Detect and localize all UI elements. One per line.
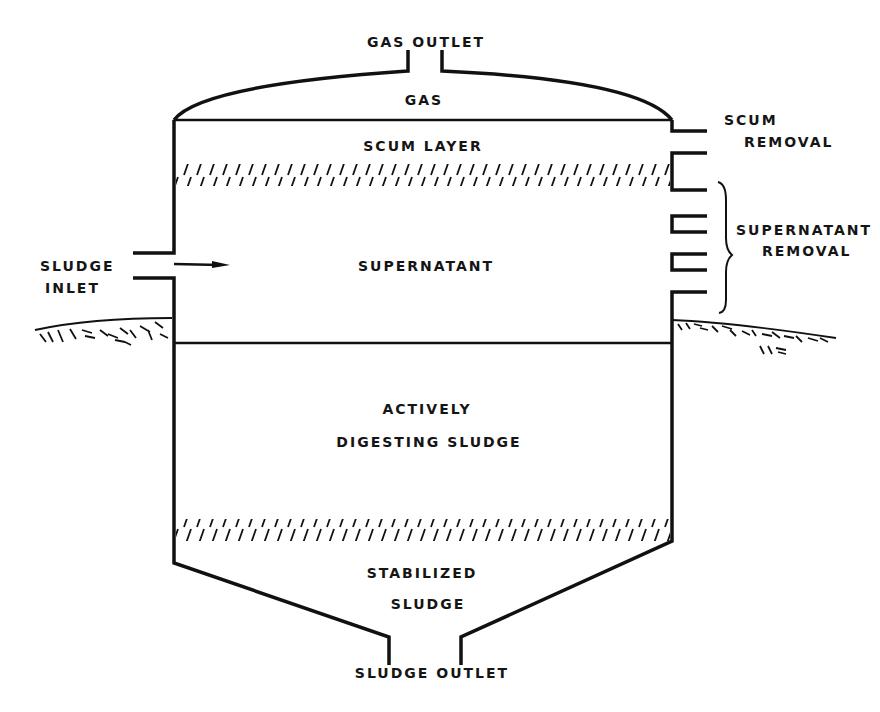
right-wall — [461, 120, 707, 665]
scum-hatch-band — [176, 164, 670, 186]
supernatant-removal-label-line2: REMOVAL — [762, 243, 851, 259]
scum-removal-label-line2: REMOVAL — [744, 134, 833, 150]
scum-layer-label: SCUM LAYER — [363, 138, 482, 154]
actively-digesting-label-line1: ACTIVELY — [382, 401, 471, 417]
inlet-arrow-icon — [174, 261, 230, 268]
ground-left-icon — [35, 318, 172, 345]
stabilized-hatch-band — [176, 519, 670, 541]
scum-removal-label-line1: SCUM — [724, 112, 778, 128]
left-wall-lower — [133, 278, 389, 665]
gas-label: GAS — [405, 92, 443, 108]
brace-icon — [718, 182, 732, 313]
actively-digesting-label-line2: DIGESTING SLUDGE — [336, 434, 521, 450]
left-wall-upper — [133, 120, 174, 253]
supernatant-removal-label-line1: SUPERNATANT — [736, 222, 872, 238]
dome-roof — [174, 50, 672, 120]
sludge-inlet-label-line2: INLET — [45, 280, 100, 296]
ground-right-icon — [672, 320, 836, 354]
supernatant-label: SUPERNATANT — [358, 258, 494, 274]
sludge-outlet-label: SLUDGE OUTLET — [355, 665, 509, 681]
stabilized-sludge-label-line1: STABILIZED — [367, 565, 478, 581]
gas-outlet-label: GAS OUTLET — [367, 34, 485, 50]
stabilized-sludge-label-line2: SLUDGE — [391, 596, 466, 612]
sludge-inlet-label-line1: SLUDGE — [40, 258, 115, 274]
